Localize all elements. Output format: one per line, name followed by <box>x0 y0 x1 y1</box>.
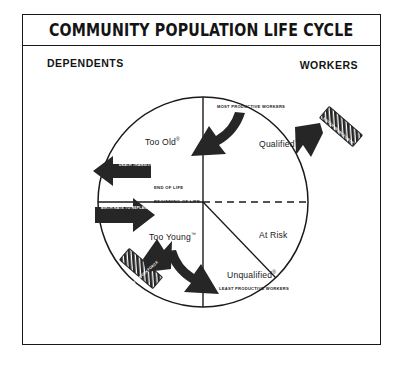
poster-frame: COMMUNITY POPULATION LIFE CYCLE DEPENDEN… <box>22 14 381 345</box>
enter-workforce-arrow <box>295 106 363 157</box>
cycle-diagram: Too Old® Qualified™ Too Young™ At Risk U… <box>23 15 382 346</box>
